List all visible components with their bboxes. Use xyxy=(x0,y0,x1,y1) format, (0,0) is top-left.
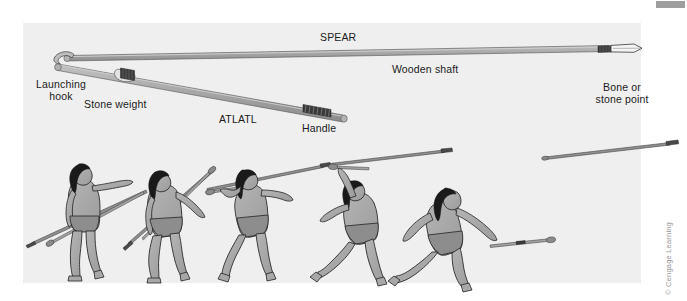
diagram-layer xyxy=(0,0,687,301)
atlatl-figure: SPEAR Wooden shaft Bone or stone point L… xyxy=(0,0,687,301)
flying-spear-right xyxy=(541,140,678,161)
flying-spear-right-shaft xyxy=(545,143,670,160)
figure3-left-leg xyxy=(222,235,246,277)
figure5-front-leg xyxy=(452,248,469,287)
flying-spear-right-butt xyxy=(541,156,548,161)
figure5-front-foot xyxy=(461,283,472,292)
figure5-atlatl-hook xyxy=(546,236,556,243)
figure1-left-foot xyxy=(68,276,82,281)
spear-point-binding xyxy=(598,46,612,53)
atlatl-group xyxy=(54,52,347,122)
figure3-spear xyxy=(207,165,324,191)
figure4-spear-point xyxy=(441,148,453,153)
stone-weight-binding xyxy=(121,68,135,81)
figure1-right-foot xyxy=(94,270,104,279)
figure4-rear-leg xyxy=(316,242,355,279)
figure1-spear-point xyxy=(26,242,36,249)
label-bone-or-stone-point-line2: stone point xyxy=(591,93,653,105)
thrower-figure-1 xyxy=(26,164,147,281)
spear-group xyxy=(64,44,642,62)
label-bone-or-stone-point-line1: Bone or xyxy=(591,81,653,93)
label-wooden-shaft: Wooden shaft xyxy=(392,63,458,75)
figure3-right-foot xyxy=(266,272,276,281)
figure5-rear-leg xyxy=(394,252,438,283)
thrower-figure-5 xyxy=(388,188,556,292)
figure2-right-foot xyxy=(180,272,190,281)
figure4-spear-overhead xyxy=(330,150,444,166)
throwing-sequence-layer xyxy=(26,140,679,292)
thrower-figure-2 xyxy=(123,165,217,283)
figure4-front-foot xyxy=(376,277,387,286)
figure2-right-leg xyxy=(170,233,187,276)
figure4-front-leg xyxy=(365,239,384,281)
figure2-left-leg xyxy=(149,235,162,279)
label-spear: SPEAR xyxy=(320,31,356,43)
label-atlatl: ATLATL xyxy=(219,113,257,125)
figure3-atlatl-hook xyxy=(205,188,215,195)
figure1-front-arm xyxy=(92,180,133,191)
launching-hook-tip xyxy=(55,64,62,71)
figure1-left-leg xyxy=(70,231,82,277)
flying-spear-right-point xyxy=(666,140,679,145)
label-handle: Handle xyxy=(302,122,336,134)
label-launching-hook-line1: Launching xyxy=(28,78,94,90)
thrower-figure-3 xyxy=(205,163,331,283)
figure1-right-leg xyxy=(86,231,101,274)
figure4-atlatl-hook xyxy=(328,164,337,170)
label-stone-weight: Stone weight xyxy=(84,98,147,110)
figure1-loincloth xyxy=(70,216,99,232)
atlatl-distal-end xyxy=(341,115,347,122)
figure2-left-foot xyxy=(147,278,161,283)
figure2-spear-point xyxy=(123,241,133,251)
copyright-credit: © Cengage Learning xyxy=(664,222,673,295)
figure3-right-leg xyxy=(256,233,273,276)
